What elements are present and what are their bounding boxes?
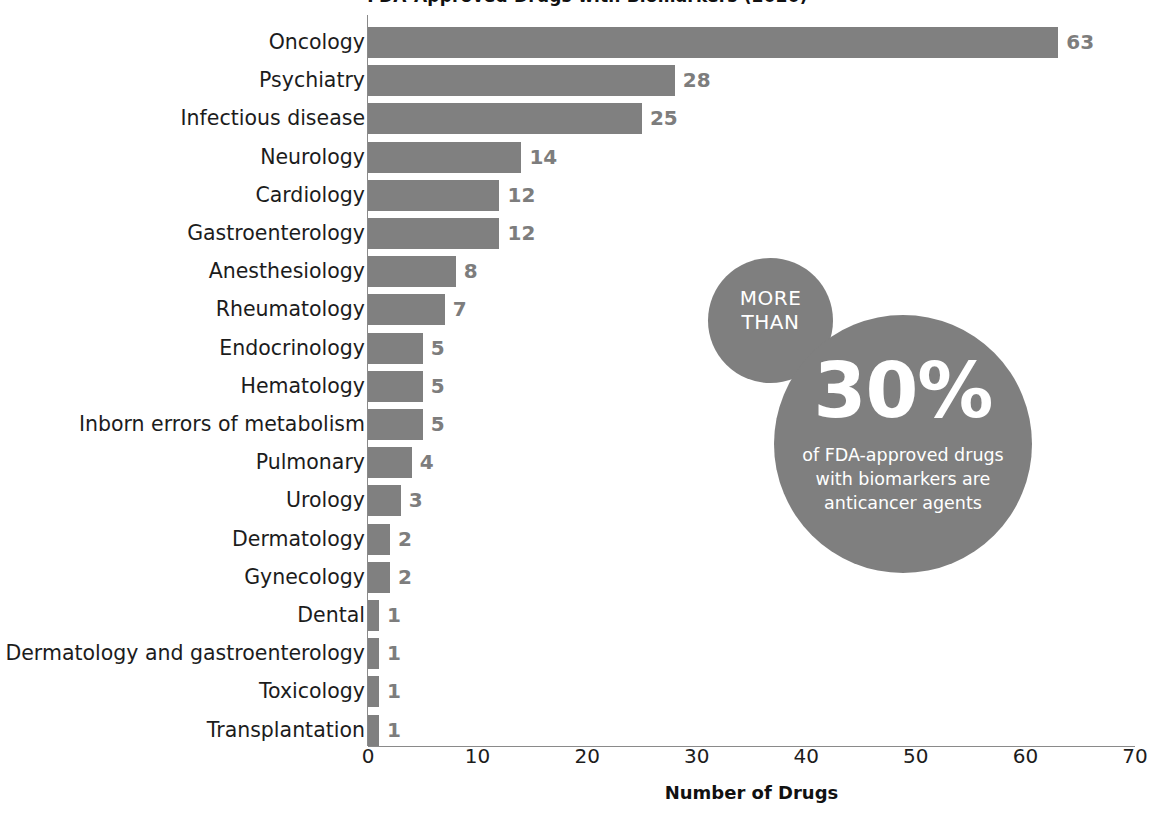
bar-segment [368, 294, 445, 325]
callout-desc-line-3: anticancer agents [824, 493, 982, 513]
bar-value-label: 8 [464, 256, 478, 287]
bar-segment [368, 180, 499, 211]
bar-category-label: Dermatology and gastroenterology [5, 638, 365, 669]
bar-segment [368, 371, 423, 402]
bar-segment [368, 333, 423, 364]
bar-value-label: 25 [650, 103, 678, 134]
bar-category-label: Infectious disease [181, 103, 365, 134]
y-axis-line [367, 15, 369, 746]
bar-segment [368, 409, 423, 440]
bar-segment [368, 715, 379, 746]
bar-value-label: 5 [431, 409, 445, 440]
bar-segment [368, 256, 456, 287]
bar-segment [368, 447, 412, 478]
x-axis-tick-label: 40 [776, 744, 836, 768]
bar-value-label: 4 [420, 447, 434, 478]
x-axis-tick-label: 50 [886, 744, 946, 768]
bar-value-label: 1 [387, 676, 401, 707]
bar-segment [368, 600, 379, 631]
bar-segment [368, 562, 390, 593]
x-axis-tick-label: 10 [448, 744, 508, 768]
bar-segment [368, 103, 642, 134]
bar-category-label: Endocrinology [219, 333, 365, 364]
bar-category-label: Anesthesiology [209, 256, 365, 287]
x-axis-tick-label: 0 [338, 744, 398, 768]
bar-value-label: 1 [387, 638, 401, 669]
bar-value-label: 1 [387, 600, 401, 631]
bar-segment [368, 218, 499, 249]
bar-value-label: 63 [1066, 27, 1094, 58]
bar-segment [368, 142, 521, 173]
bar-category-label: Dermatology [232, 524, 365, 555]
x-axis-title-text: Number of Drugs [665, 782, 839, 803]
bar-category-label: Toxicology [259, 676, 365, 707]
bar-row: Dental1 [0, 600, 1175, 631]
bar-category-label: Inborn errors of metabolism [79, 409, 365, 440]
bar-row: Toxicology1 [0, 676, 1175, 707]
callout-bubbles: MORE THAN 30% of FDA-approved drugs with… [690, 245, 1050, 585]
x-axis-tick-label: 20 [557, 744, 617, 768]
callout-large-bubble: 30% of FDA-approved drugs with biomarker… [774, 315, 1032, 573]
bar-row: Infectious disease25 [0, 103, 1175, 134]
bar-value-label: 12 [507, 218, 535, 249]
bar-value-label: 1 [387, 715, 401, 746]
x-axis-title: Number of Drugs [0, 782, 1175, 803]
bar-category-label: Psychiatry [259, 65, 365, 96]
bar-row: Transplantation1 [0, 715, 1175, 746]
bar-segment [368, 485, 401, 516]
x-axis-tick-label: 30 [667, 744, 727, 768]
bar-segment [368, 65, 675, 96]
bar-row: Neurology14 [0, 142, 1175, 173]
callout-description: of FDA-approved drugs with biomarkers ar… [774, 443, 1032, 515]
bar-category-label: Neurology [260, 142, 365, 173]
bar-category-label: Dental [297, 600, 365, 631]
callout-more-line: MORE [740, 286, 802, 310]
bar-category-label: Transplantation [207, 715, 365, 746]
x-axis-tick-label: 70 [1105, 744, 1165, 768]
bar-category-label: Oncology [269, 27, 365, 58]
callout-desc-line-1: of FDA-approved drugs [802, 445, 1003, 465]
bar-value-label: 5 [431, 371, 445, 402]
bar-value-label: 5 [431, 333, 445, 364]
bar-value-label: 14 [529, 142, 557, 173]
bar-value-label: 28 [683, 65, 711, 96]
bar-row: Cardiology12 [0, 180, 1175, 211]
x-axis-tick-label: 60 [995, 744, 1055, 768]
bar-row: Psychiatry28 [0, 65, 1175, 96]
bar-value-label: 2 [398, 562, 412, 593]
bar-category-label: Hematology [240, 371, 365, 402]
callout-than-line: THAN [742, 310, 800, 334]
bar-segment [368, 27, 1058, 58]
bar-segment [368, 638, 379, 669]
bar-value-label: 12 [507, 180, 535, 211]
bar-category-label: Cardiology [255, 180, 365, 211]
bar-segment [368, 676, 379, 707]
bar-category-label: Gastroenterology [187, 218, 365, 249]
callout-desc-line-2: with biomarkers are [816, 469, 991, 489]
bar-value-label: 7 [453, 294, 467, 325]
bar-value-label: 3 [409, 485, 423, 516]
bar-category-label: Gynecology [244, 562, 365, 593]
bar-row: Dermatology and gastroenterology1 [0, 638, 1175, 669]
bar-category-label: Pulmonary [256, 447, 365, 478]
callout-more-than-text: MORE THAN [708, 286, 833, 334]
bar-category-label: Urology [286, 485, 365, 516]
bar-segment [368, 524, 390, 555]
bar-row: Oncology63 [0, 27, 1175, 58]
bar-category-label: Rheumatology [216, 294, 365, 325]
chart-page: FDA-Approved Drugs with Biomarkers (2020… [0, 0, 1175, 820]
callout-percent-value: 30% [774, 351, 1032, 431]
bar-value-label: 2 [398, 524, 412, 555]
